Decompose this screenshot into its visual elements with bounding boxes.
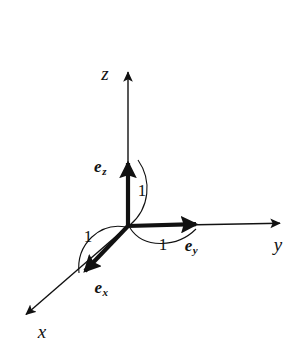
e-z-subscript: z (102, 165, 106, 177)
e-y-label: ey (185, 237, 197, 254)
unit-length-label-z: 1 (138, 182, 147, 199)
e-z-label: ez (94, 158, 106, 175)
e-y-subscript: y (193, 244, 198, 256)
e-x-subscript: x (103, 286, 109, 298)
unit-length-label-x: 1 (84, 228, 93, 245)
e-y-base: e (185, 236, 193, 255)
z-axis-label: z (101, 64, 108, 83)
unit-length-arcs (79, 160, 196, 273)
e-x-base: e (94, 278, 102, 297)
e-y-vector (128, 224, 196, 226)
axes-drawing (0, 0, 304, 360)
e-z-base: e (94, 157, 102, 176)
coordinate-axes-figure: z y x ez ey ex 1 1 1 (0, 0, 304, 360)
basis-vector-lines (85, 163, 196, 271)
axis-lines (26, 72, 280, 315)
y-axis-label: y (274, 235, 282, 254)
x-axis-label: x (38, 322, 46, 341)
unit-length-label-y: 1 (159, 236, 168, 253)
e-x-label: ex (94, 279, 107, 296)
